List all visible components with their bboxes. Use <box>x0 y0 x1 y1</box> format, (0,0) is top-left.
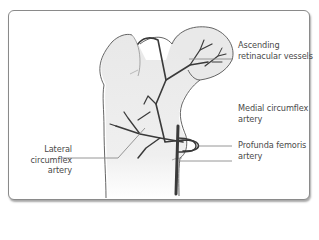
femur-bone <box>100 27 233 198</box>
label-line: Ascending <box>238 40 313 51</box>
label-line: circumflex artery <box>10 155 72 176</box>
label-lateral-circumflex-artery: Lateral circumflex artery <box>10 144 72 176</box>
label-line: Lateral <box>10 144 72 155</box>
label-line: artery <box>238 114 308 125</box>
label-line: retinacular vessels <box>238 51 313 62</box>
profunda-femoris-vessel <box>176 126 178 194</box>
label-profunda-femoris-artery: Profunda femoris artery <box>238 140 306 161</box>
label-line: Profunda femoris <box>238 140 306 151</box>
label-medial-circumflex-artery: Medial circumflex artery <box>238 103 308 124</box>
label-line: artery <box>238 151 306 162</box>
label-line: Medial circumflex <box>238 103 308 114</box>
label-ascending-retinacular-vessels: Ascending retinacular vessels <box>238 40 313 61</box>
